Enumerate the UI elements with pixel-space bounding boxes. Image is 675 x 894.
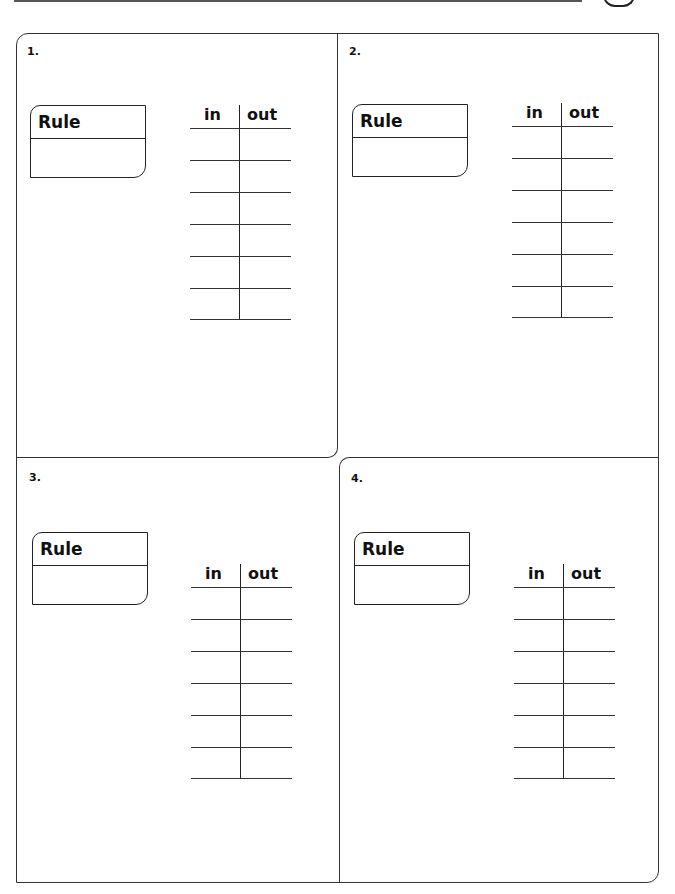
- table-row-line[interactable]: [190, 192, 291, 193]
- in-out-table: in out: [190, 105, 291, 320]
- in-out-table: in out: [191, 564, 292, 779]
- table-row-line[interactable]: [190, 319, 291, 320]
- table-row-line[interactable]: [191, 778, 292, 779]
- column-divider: [239, 105, 240, 319]
- rule-answer-field[interactable]: [353, 139, 467, 176]
- rule-label: Rule: [40, 539, 83, 559]
- table-row-line[interactable]: [191, 619, 292, 620]
- column-divider: [563, 564, 564, 778]
- table-row-line[interactable]: [190, 288, 291, 289]
- header-rule: [14, 0, 582, 2]
- problem-number: 1.: [27, 45, 39, 58]
- header-in: in: [528, 564, 545, 583]
- table-row-line[interactable]: [514, 778, 615, 779]
- rule-answer-field[interactable]: [33, 567, 147, 604]
- problem-number: 3.: [29, 471, 41, 484]
- header-out: out: [247, 105, 277, 124]
- table-row-line[interactable]: [514, 619, 615, 620]
- problem-number: 4.: [351, 472, 363, 485]
- header-badge-icon: [603, 0, 635, 7]
- header-in: in: [526, 103, 543, 122]
- in-out-table: in out: [514, 564, 615, 779]
- table-row-line[interactable]: [191, 651, 292, 652]
- header-out: out: [569, 103, 599, 122]
- table-row-line[interactable]: [190, 160, 291, 161]
- table-row-line[interactable]: [514, 747, 615, 748]
- panel-1: 1. Rule in out: [16, 33, 338, 458]
- header-out: out: [248, 564, 278, 583]
- table-row-line: [190, 128, 291, 129]
- in-out-table: in out: [512, 103, 613, 318]
- header-in: in: [204, 105, 221, 124]
- panel-2: 2. Rule in out: [336, 33, 659, 458]
- table-row-line: [191, 587, 292, 588]
- header-in: in: [205, 564, 222, 583]
- table-row-line[interactable]: [190, 224, 291, 225]
- rule-box: Rule: [352, 104, 468, 177]
- rule-divider: [355, 565, 469, 566]
- rule-label: Rule: [362, 539, 405, 559]
- table-row-line[interactable]: [512, 222, 613, 223]
- problem-number: 2.: [349, 45, 361, 58]
- rule-label: Rule: [38, 112, 81, 132]
- panel-3: 3. Rule in out: [16, 457, 339, 883]
- rule-divider: [31, 138, 145, 139]
- rule-box: Rule: [32, 532, 148, 605]
- table-row-line[interactable]: [512, 158, 613, 159]
- table-row-line[interactable]: [512, 317, 613, 318]
- rule-box: Rule: [30, 105, 146, 178]
- table-row-line[interactable]: [514, 683, 615, 684]
- table-row-line[interactable]: [514, 715, 615, 716]
- table-row-line[interactable]: [191, 683, 292, 684]
- table-row-line[interactable]: [514, 651, 615, 652]
- table-row-line[interactable]: [190, 256, 291, 257]
- rule-box: Rule: [354, 532, 470, 605]
- header-out: out: [571, 564, 601, 583]
- rule-divider: [353, 137, 467, 138]
- worksheet: 1. Rule in out 2. Rule in out: [16, 33, 659, 883]
- table-row-line: [512, 126, 613, 127]
- table-row-line[interactable]: [512, 254, 613, 255]
- column-divider: [561, 103, 562, 317]
- table-row-line[interactable]: [191, 747, 292, 748]
- rule-divider: [33, 565, 147, 566]
- rule-answer-field[interactable]: [31, 140, 145, 177]
- rule-label: Rule: [360, 111, 403, 131]
- table-row-line[interactable]: [191, 715, 292, 716]
- table-row-line[interactable]: [512, 190, 613, 191]
- panel-4: 4. Rule in out: [339, 457, 659, 883]
- column-divider: [240, 564, 241, 778]
- table-row-line: [514, 587, 615, 588]
- table-row-line[interactable]: [512, 286, 613, 287]
- rule-answer-field[interactable]: [355, 567, 469, 604]
